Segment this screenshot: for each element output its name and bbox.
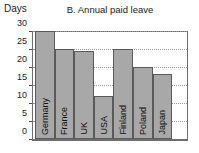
bar-label-france: France — [60, 107, 69, 135]
bar-label-finland: Finland — [119, 105, 128, 135]
y-tick-label-15: 15 — [0, 73, 27, 82]
y-tick-label-5: 5 — [0, 109, 27, 118]
y-axis-tick-labels: 051015202530 — [0, 31, 32, 141]
bar-label-uk: UK — [79, 122, 88, 135]
y-tick-label-0: 0 — [0, 127, 27, 136]
bar-usa: USA — [94, 96, 114, 139]
y-axis-unit-label: Days — [4, 3, 27, 14]
gridline-0 — [33, 139, 187, 140]
bar-label-poland: Poland — [138, 107, 147, 135]
bar-france: France — [55, 49, 75, 139]
bar-poland: Poland — [133, 67, 153, 139]
chart-container: Days B. Annual paid leave 051015202530 G… — [0, 0, 199, 153]
bar-uk: UK — [74, 51, 94, 139]
bar-series: GermanyFranceUKUSAFinlandPolandJapan — [34, 33, 186, 139]
bar-label-germany: Germany — [40, 98, 49, 135]
bar-japan: Japan — [153, 74, 173, 139]
gridline-30 — [33, 31, 187, 32]
bar-label-japan: Japan — [158, 110, 167, 135]
bar-label-usa: USA — [99, 116, 108, 135]
y-tick-label-25: 25 — [0, 37, 27, 46]
plot-area: GermanyFranceUKUSAFinlandPolandJapan — [32, 31, 188, 141]
bar-germany: Germany — [35, 31, 55, 139]
y-tick-label-10: 10 — [0, 91, 27, 100]
chart-title: B. Annual paid leave — [32, 4, 188, 15]
y-tick-label-30: 30 — [0, 19, 27, 28]
y-tick-label-20: 20 — [0, 55, 27, 64]
bar-finland: Finland — [113, 49, 133, 139]
